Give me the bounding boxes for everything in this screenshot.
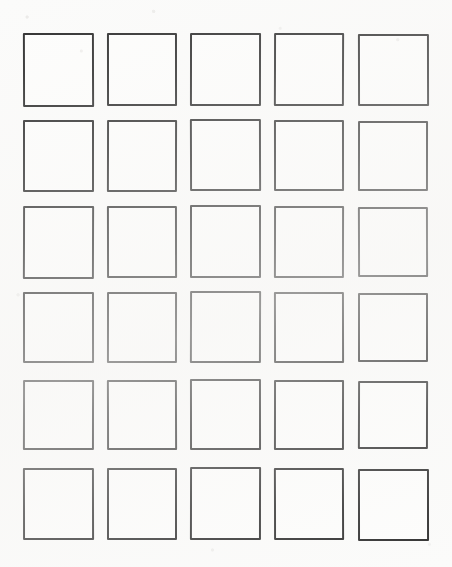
grid-cell-r5-c3[interactable] [190, 379, 261, 450]
grid-cell-r5-c5[interactable] [358, 381, 428, 449]
grid-cell-r1-c5[interactable] [358, 34, 429, 106]
grid-cell-r6-c3[interactable] [190, 467, 261, 540]
grid-cell-r3-c4[interactable] [274, 206, 344, 278]
grid-cell-r1-c4[interactable] [274, 33, 344, 106]
grid-cell-r5-c4[interactable] [274, 380, 344, 450]
square-grid [0, 0, 452, 567]
grid-cell-r2-c3[interactable] [190, 119, 261, 191]
grid-cell-r1-c1[interactable] [23, 33, 94, 107]
grid-cell-r6-c1[interactable] [23, 468, 94, 540]
grid-cell-r4-c4[interactable] [274, 292, 344, 363]
grid-cell-r4-c3[interactable] [190, 291, 261, 363]
worksheet-page [0, 0, 452, 567]
grid-cell-r3-c5[interactable] [358, 207, 428, 277]
grid-cell-r1-c2[interactable] [107, 33, 177, 106]
grid-cell-r4-c5[interactable] [358, 293, 428, 362]
grid-cell-r3-c2[interactable] [107, 206, 177, 278]
grid-cell-r4-c2[interactable] [107, 292, 177, 363]
grid-cell-r2-c5[interactable] [358, 121, 428, 191]
grid-cell-r1-c3[interactable] [190, 33, 261, 106]
grid-cell-r2-c4[interactable] [274, 120, 344, 191]
grid-cell-r5-c1[interactable] [23, 380, 94, 450]
grid-cell-r6-c4[interactable] [274, 468, 344, 540]
grid-cell-r6-c2[interactable] [107, 468, 177, 540]
grid-cell-r4-c1[interactable] [23, 292, 94, 363]
grid-cell-r6-c5[interactable] [358, 469, 429, 541]
grid-cell-r3-c1[interactable] [23, 206, 94, 279]
grid-cell-r2-c2[interactable] [107, 120, 177, 192]
grid-cell-r5-c2[interactable] [107, 380, 177, 450]
grid-cell-r3-c3[interactable] [190, 205, 261, 278]
grid-cell-r2-c1[interactable] [23, 120, 94, 192]
